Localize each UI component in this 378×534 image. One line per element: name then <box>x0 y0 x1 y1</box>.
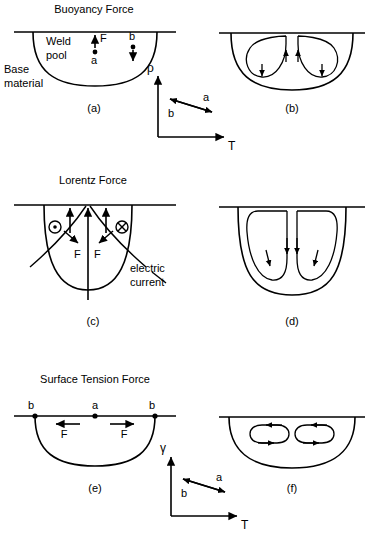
panel-surface-tension-e: Surface Tension Force b a b F F (e) <box>14 373 176 494</box>
point-e-right-label: b <box>149 399 155 411</box>
inset-top-point-b: b <box>168 107 174 119</box>
lorentz-force-arrow-left <box>64 231 78 243</box>
pool-label: pool <box>46 49 67 61</box>
inset-top-xaxis-label: T <box>228 139 236 153</box>
point-e-left-dot <box>32 413 37 418</box>
inset-bottom-point-b: b <box>181 487 187 499</box>
point-a-label: a <box>91 54 98 66</box>
point-e-left-label: b <box>28 399 34 411</box>
caption-b: (b) <box>285 102 298 114</box>
electric-label: electric <box>130 262 165 274</box>
weld-label: Weld <box>46 35 71 47</box>
weld-pool-outline-f <box>229 417 355 468</box>
inset-rho-vs-t: ρ T b a <box>147 61 236 153</box>
current-label: current <box>130 276 164 288</box>
lorentz-force-label-left: F <box>74 248 81 260</box>
inset-top-point-a: a <box>203 91 210 103</box>
caption-f: (f) <box>287 482 297 494</box>
weld-pool-outline-b <box>231 33 353 90</box>
flow-loop-b-left <box>246 36 286 77</box>
inset-top-yaxis-label: ρ <box>147 61 154 75</box>
flow-arrow-d-right-outer <box>314 250 318 266</box>
inset-bottom-xaxis-label: T <box>241 518 249 532</box>
figure-canvas: Buoyancy Force Weld pool Base material F… <box>0 0 378 534</box>
point-e-right-dot <box>152 413 157 418</box>
panel-surface-tension-f: (f) <box>219 417 365 494</box>
inset-bottom-yaxis-label: γ <box>160 441 166 455</box>
panel-buoyancy-a: Buoyancy Force Weld pool Base material F… <box>4 3 176 114</box>
panel-lorentz-d: (d) <box>219 207 365 327</box>
weld-pool-outline-d <box>238 207 346 295</box>
inset-gamma-vs-t: γ T b a <box>160 441 249 532</box>
inset-bottom-point-a: a <box>216 471 223 483</box>
flow-arrow-d-left-outer <box>266 250 270 266</box>
panel-buoyancy-b: (b) <box>219 33 365 114</box>
surface-force-label-right: F <box>121 428 128 440</box>
flow-loop-b-right <box>298 36 338 77</box>
point-b-label: b <box>129 30 135 42</box>
point-b-dot <box>131 45 136 50</box>
caption-e: (e) <box>88 482 101 494</box>
flow-loop-f-right <box>295 425 334 443</box>
caption-c: (c) <box>87 315 100 327</box>
surface-tension-title: Surface Tension Force <box>40 373 150 385</box>
caption-a: (a) <box>87 102 100 114</box>
flow-loop-d-right <box>297 211 337 280</box>
flow-loop-d-left <box>247 211 287 280</box>
lorentz-force-label-right: F <box>94 248 101 260</box>
weld-pool-outline-e <box>35 416 155 466</box>
force-a-label: F <box>100 32 107 44</box>
field-into-page-icon <box>116 221 128 233</box>
panel-lorentz-c: Lorentz Force electric current F F (c) <box>14 174 176 327</box>
flow-loop-f-left <box>250 425 289 443</box>
buoyancy-title: Buoyancy Force <box>54 3 133 15</box>
weld-pool-forces-figure: Buoyancy Force Weld pool Base material F… <box>0 0 378 534</box>
field-out-of-page-icon <box>49 221 61 233</box>
surface-force-label-left: F <box>61 428 68 440</box>
material-label: material <box>4 77 43 89</box>
lorentz-title: Lorentz Force <box>59 174 127 186</box>
base-label: Base <box>4 63 29 75</box>
point-e-mid-dot <box>92 413 97 418</box>
point-e-mid-label: a <box>92 399 99 411</box>
caption-d: (d) <box>285 315 298 327</box>
